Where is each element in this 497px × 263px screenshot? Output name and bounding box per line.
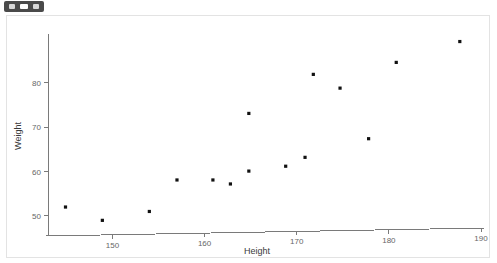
x-tick-label: 170 <box>290 237 304 246</box>
data-point[interactable] <box>64 205 67 208</box>
data-point[interactable] <box>458 40 461 43</box>
data-point[interactable] <box>247 169 250 172</box>
y-tick-label: 70 <box>32 123 41 132</box>
y-axis-title: Weight <box>13 122 23 150</box>
x-tick-label: 190 <box>474 234 488 243</box>
plot-area[interactable]: 50607080150160170180190 Height Weight <box>7 16 491 259</box>
x-tick-label: 160 <box>198 239 212 248</box>
chip-button-3-icon[interactable] <box>33 4 39 9</box>
ticks-group: 50607080150160170180190 <box>32 79 488 250</box>
chart-panel: 50607080150160170180190 Height Weight <box>6 15 490 258</box>
data-point[interactable] <box>338 87 341 90</box>
window-toolbar-chip[interactable] <box>4 1 44 12</box>
data-point[interactable] <box>101 219 104 222</box>
x-tick-label: 150 <box>106 241 120 250</box>
data-point[interactable] <box>211 178 214 181</box>
axes-group <box>46 34 485 236</box>
data-point[interactable] <box>247 112 250 115</box>
scatter-chart[interactable]: 50607080150160170180190 Height Weight <box>7 16 491 259</box>
y-tick-label: 60 <box>32 168 41 177</box>
y-tick-label: 50 <box>32 212 41 221</box>
x-tick-label: 180 <box>382 236 396 245</box>
data-points-group[interactable] <box>64 40 462 222</box>
data-point[interactable] <box>367 137 370 140</box>
data-point[interactable] <box>303 156 306 159</box>
data-point[interactable] <box>229 182 232 185</box>
scatter-plot-screenshot: 50607080150160170180190 Height Weight <box>0 0 497 263</box>
data-point[interactable] <box>148 210 151 213</box>
data-point[interactable] <box>312 73 315 76</box>
y-tick-label: 80 <box>32 79 41 88</box>
chip-button-2-icon[interactable] <box>20 4 28 9</box>
x-axis-line <box>46 228 485 236</box>
data-point[interactable] <box>284 165 287 168</box>
chip-button-1-icon[interactable] <box>9 4 15 9</box>
data-point[interactable] <box>395 61 398 64</box>
x-axis-title: Height <box>244 246 271 256</box>
data-point[interactable] <box>175 178 178 181</box>
